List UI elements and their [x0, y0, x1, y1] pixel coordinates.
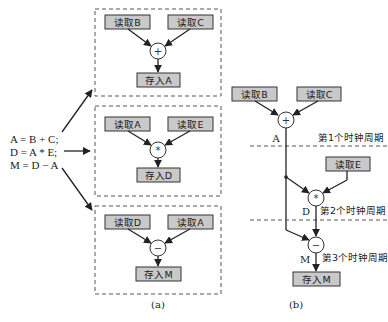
panel-a-group-3: 读取D 读取A − 存入M — [95, 206, 221, 294]
arrow — [165, 229, 190, 243]
equation-1: A = B + C; — [10, 133, 58, 145]
arrow — [165, 29, 190, 46]
operator-symbol: * — [156, 145, 161, 156]
operator-symbol: − — [154, 243, 162, 254]
read-b-label: 读取B — [241, 89, 268, 100]
read-e-label: 读取E — [335, 159, 361, 170]
arrow — [128, 29, 151, 46]
arrow-eq-to-group1 — [62, 90, 92, 132]
store-label: 存入A — [145, 75, 172, 86]
caption-a: (a) — [151, 299, 165, 310]
cycle-2-label: 第2个时钟周期 — [320, 205, 386, 216]
read-label: 读取A — [177, 217, 204, 228]
arrow — [128, 229, 151, 243]
arrow — [293, 101, 318, 115]
arrow-eq-to-group3 — [62, 168, 92, 210]
diagram-canvas: A = B + C; D = A * E; M = D − A 读取B 读取C … — [0, 0, 388, 322]
sub-operator-symbol: − — [312, 240, 320, 251]
read-label: 读取B — [114, 17, 141, 28]
arrow — [286, 177, 309, 193]
caption-b: (b) — [289, 299, 303, 310]
arrow — [286, 230, 309, 240]
equations: A = B + C; D = A * E; M = D − A — [10, 133, 59, 171]
operator-symbol: + — [154, 46, 162, 57]
equation-3: M = D − A — [10, 159, 59, 171]
equation-2: D = A * E; — [10, 146, 57, 158]
label-m: M — [300, 254, 310, 265]
arrow — [165, 131, 190, 145]
diagram-stage: A = B + C; D = A * E; M = D − A 读取B 读取C … — [0, 0, 388, 322]
store-label: 存入M — [144, 269, 172, 280]
label-a: A — [271, 133, 280, 144]
add-operator-symbol: + — [282, 115, 290, 126]
arrow — [323, 180, 347, 193]
store-label: 存入D — [145, 170, 172, 181]
cycle-3-label: 第3个时钟周期 — [322, 252, 388, 263]
mul-operator-symbol: * — [314, 193, 319, 204]
read-c-label: 读取C — [306, 89, 333, 100]
label-d: D — [302, 206, 310, 217]
arrow — [255, 101, 278, 115]
arrow — [128, 131, 151, 145]
store-m-label: 存入M — [302, 274, 330, 285]
panel-b: 读取B 读取C + A 第1个时钟周期 读取E * D 第2个时钟周期 − M … — [232, 87, 388, 286]
cycle-1-label: 第1个时钟周期 — [318, 132, 384, 143]
panel-a-group-1: 读取B 读取C + 存入A — [95, 9, 221, 96]
read-label: 读取C — [177, 17, 204, 28]
read-label: 读取D — [114, 217, 141, 228]
read-label: 读取E — [177, 119, 203, 130]
read-label: 读取A — [114, 119, 141, 130]
panel-a-group-2: 读取A 读取E * 存入D — [95, 106, 221, 196]
